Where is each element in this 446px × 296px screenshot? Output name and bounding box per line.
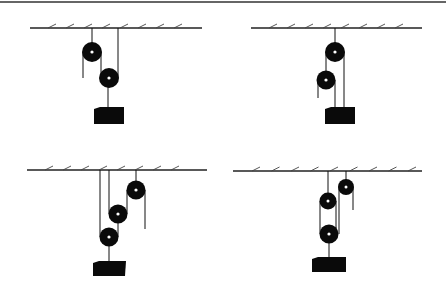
axle-c-bottom: [107, 235, 110, 238]
weight-block-a: [94, 107, 124, 124]
pulley-system-a: [30, 24, 202, 124]
axle-b-lower: [324, 78, 327, 81]
axle-a-movable: [107, 76, 110, 79]
axle-d-upper-right: [345, 186, 348, 189]
axle-c-middle: [116, 212, 119, 215]
weight-block-c: [93, 261, 126, 276]
weight-block-d: [312, 257, 346, 272]
pulley-system-b: [251, 24, 422, 124]
axle-b-upper: [333, 50, 336, 53]
pulley-system-d: [233, 167, 422, 272]
axle-c-top: [134, 188, 137, 191]
axle-d-upper-left: [327, 200, 330, 203]
axle-d-lower: [327, 232, 330, 235]
weight-block-b: [325, 107, 355, 124]
pulley-system-c: [27, 166, 207, 276]
pulley-diagram: [0, 0, 446, 296]
axle-a-fixed: [90, 50, 93, 53]
